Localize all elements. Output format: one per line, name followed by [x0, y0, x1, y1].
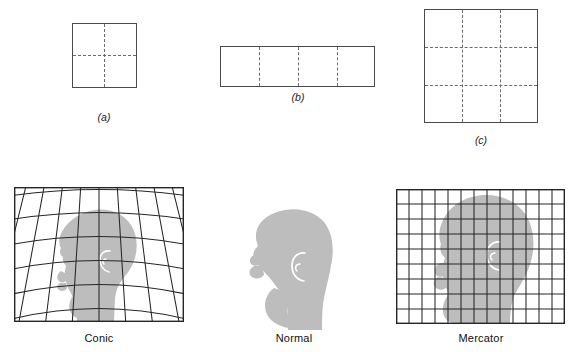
diagram-a-horizontal-divider [73, 55, 136, 56]
diagram-c-horizontal-divider-2 [425, 85, 537, 86]
panel-conic [14, 187, 184, 322]
diagram-b-vertical-divider-3 [337, 47, 338, 86]
diagram-c-outline [424, 9, 538, 123]
diagram-c-horizontal-divider-1 [425, 47, 537, 48]
caption-c: (c) [461, 134, 501, 146]
diagram-c [424, 9, 538, 123]
diagram-a [72, 23, 137, 88]
panel-label-mercator: Mercator [441, 332, 521, 344]
conic-projection-svg [14, 187, 184, 322]
panel-label-normal: Normal [254, 332, 334, 344]
diagram-c-vertical-divider-1 [462, 10, 463, 122]
diagram-b-vertical-divider-1 [259, 47, 260, 86]
normal-head-silhouette [250, 209, 333, 330]
panel-mercator [396, 189, 565, 324]
caption-b: (b) [278, 91, 318, 103]
caption-a: (a) [84, 111, 124, 123]
panel-label-conic: Conic [59, 332, 139, 344]
normal-head-svg [248, 208, 344, 330]
diagram-c-vertical-divider-2 [500, 10, 501, 122]
diagram-b-vertical-divider-2 [298, 47, 299, 86]
mercator-projection-svg [396, 189, 565, 324]
panel-normal [248, 208, 344, 330]
diagram-b [220, 46, 375, 87]
